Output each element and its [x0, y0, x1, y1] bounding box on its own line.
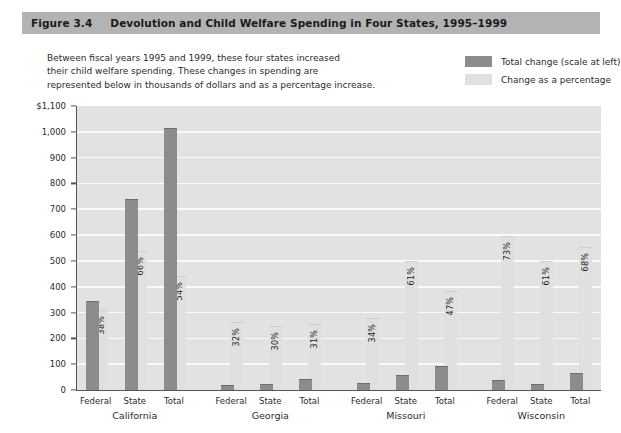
gridline — [77, 183, 601, 185]
gridline — [77, 260, 601, 262]
bar-total-change — [260, 384, 273, 390]
x-axis-category-label: State — [259, 396, 282, 406]
y-axis-tick-label: 1,000 — [42, 127, 66, 137]
bar-total-change — [125, 199, 138, 390]
gridline — [77, 338, 601, 340]
bar-total-change — [531, 384, 544, 390]
figure-number: Figure 3.4 — [31, 17, 92, 29]
gridline — [77, 208, 601, 210]
y-axis-tick-label: 100 — [50, 359, 66, 369]
x-axis-group-label: Wisconsin — [518, 410, 565, 421]
y-axis-tick-label: $1,100 — [36, 101, 66, 111]
bar-percentage-label: 32% — [232, 328, 241, 346]
x-axis-category-label: State — [395, 396, 418, 406]
bar-percentage-label: 31% — [310, 330, 319, 348]
y-axis-tick-label: 0 — [61, 385, 66, 395]
bar-total-change — [357, 383, 370, 390]
bar-percentage-label: 61% — [407, 267, 416, 285]
legend-label-percentage: Change as a percentage — [501, 75, 611, 85]
x-axis-category-label: State — [530, 396, 553, 406]
x-axis-category-label: Federal — [215, 396, 246, 406]
x-axis-group-label: California — [112, 410, 157, 421]
chart-legend: Total change (scale at left) Change as a… — [465, 56, 620, 92]
x-axis-group-label: Georgia — [252, 410, 289, 421]
figure-caption: Between fiscal years 1995 and 1999, thes… — [47, 52, 407, 92]
bar-percentage-label: 68% — [581, 253, 590, 271]
y-axis-tick-label: 500 — [50, 256, 66, 266]
x-axis-category-label: Federal — [80, 396, 111, 406]
bar-total-change — [299, 379, 312, 390]
bar-total-change — [86, 301, 99, 390]
caption-line-1: Between fiscal years 1995 and 1999, thes… — [47, 52, 407, 65]
chart-plot-area: 38%66%54%32%30%31%34%61%47%73%61%68% — [76, 106, 601, 391]
legend-item-percentage: Change as a percentage — [465, 74, 620, 85]
x-axis-category-label: State — [124, 396, 147, 406]
y-axis-tick-label: 700 — [50, 204, 66, 214]
x-axis-group-label: Missouri — [386, 410, 425, 421]
x-axis-category-label: Federal — [486, 396, 517, 406]
y-axis: $1,1001,0009008007006005004003002001000 — [0, 106, 76, 390]
gridline — [77, 363, 601, 365]
gridline — [77, 312, 601, 314]
y-axis-tick-label: 900 — [50, 153, 66, 163]
x-axis-category-label: Total — [164, 396, 184, 406]
gridline — [77, 157, 601, 159]
y-axis-tick-label: 600 — [50, 230, 66, 240]
gridline — [77, 234, 601, 236]
bar-percentage-label: 73% — [503, 242, 512, 260]
bar-total-change — [492, 380, 505, 390]
x-axis-category-label: Total — [299, 396, 319, 406]
bar-percentage-label: 30% — [271, 332, 280, 350]
legend-item-total-change: Total change (scale at left) — [465, 56, 620, 67]
bar-total-change — [396, 375, 409, 390]
legend-swatch-total-change — [465, 56, 492, 67]
legend-swatch-percentage — [465, 74, 492, 85]
figure-page: Figure 3.4 Devolution and Child Welfare … — [0, 0, 621, 433]
gridline — [77, 286, 601, 288]
gridline — [77, 131, 601, 133]
y-axis-tick-label: 300 — [50, 308, 66, 318]
bar-total-change — [164, 128, 177, 390]
x-axis-category-label: Total — [570, 396, 590, 406]
y-axis-tick-label: 400 — [50, 282, 66, 292]
figure-title: Devolution and Child Welfare Spending in… — [110, 17, 507, 29]
bar-percentage-label: 34% — [368, 324, 377, 342]
legend-label-total-change: Total change (scale at left) — [501, 57, 620, 67]
y-axis-tick-label: 800 — [50, 178, 66, 188]
bar-total-change — [221, 385, 234, 390]
x-axis-category-label: Total — [435, 396, 455, 406]
x-axis-category-label: Federal — [351, 396, 382, 406]
figure-title-bar: Figure 3.4 Devolution and Child Welfare … — [22, 12, 600, 34]
y-axis-tick-label: 200 — [50, 333, 66, 343]
caption-line-3: represented below in thousands of dollar… — [47, 79, 407, 92]
bar-total-change — [570, 373, 583, 390]
bar-percentage-label: 61% — [542, 267, 551, 285]
bar-percentage-label: 47% — [446, 297, 455, 315]
caption-line-2: their child welfare spending. These chan… — [47, 65, 407, 78]
bar-total-change — [435, 366, 448, 390]
